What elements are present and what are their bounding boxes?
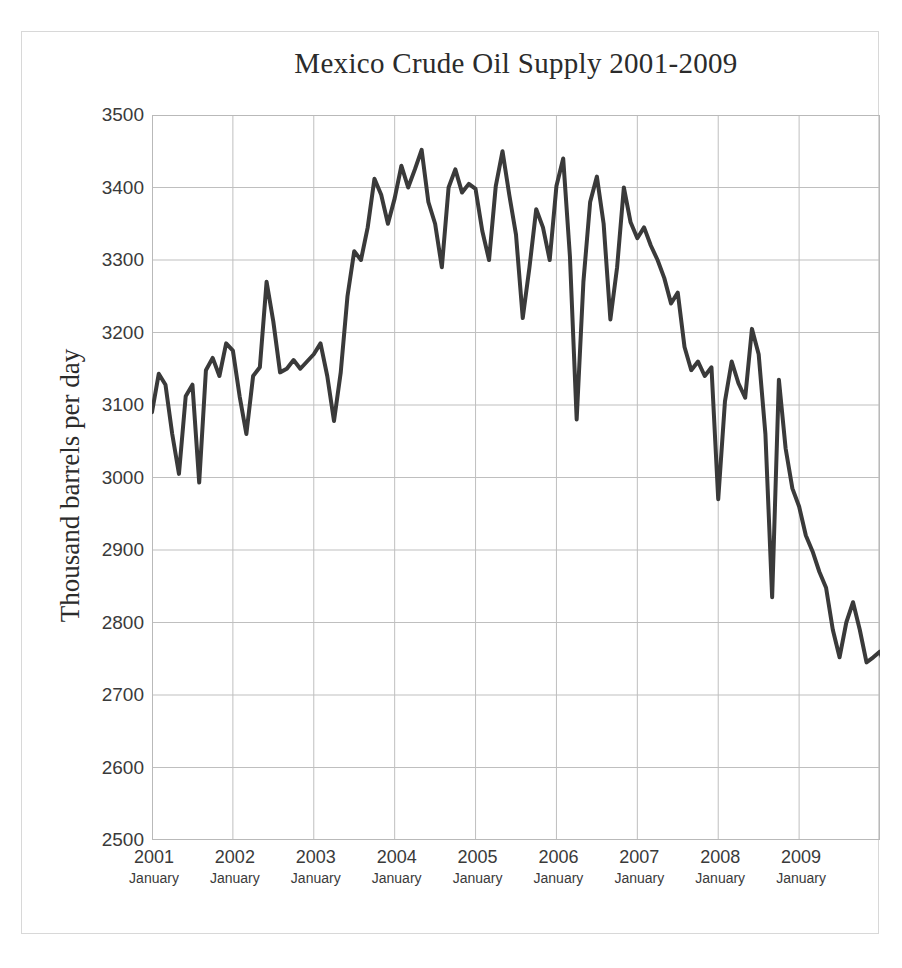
x-axis-tick-year: 2009 xyxy=(746,846,856,868)
y-axis-tick-label: 3400 xyxy=(74,177,144,199)
x-axis-tick-labels: 2001January2002January2003January2004Jan… xyxy=(152,846,880,916)
y-axis-tick-label: 3500 xyxy=(74,104,144,126)
y-axis-tick-label: 2600 xyxy=(74,757,144,779)
y-axis-tick-label: 3000 xyxy=(74,467,144,489)
plot-area xyxy=(152,115,880,840)
page-title: Mexico Crude Oil Supply 2001-2009 xyxy=(152,47,880,80)
x-axis-tick-2009: 2009January xyxy=(746,846,856,888)
y-axis-tick-label: 3300 xyxy=(74,249,144,271)
y-axis-tick-label: 2900 xyxy=(74,539,144,561)
y-axis-tick-label: 3100 xyxy=(74,394,144,416)
y-axis-tick-label: 2800 xyxy=(74,612,144,634)
x-axis-tick-month: January xyxy=(746,868,856,888)
data-series-line xyxy=(152,150,880,829)
y-axis-tick-label: 2700 xyxy=(74,684,144,706)
plot-svg xyxy=(152,115,880,840)
y-axis-tick-labels: 3500340033003200310030002900280027002600… xyxy=(66,115,144,840)
chart-figure: Mexico Crude Oil Supply 2001-2009 Thousa… xyxy=(0,0,902,968)
y-axis-tick-label: 3200 xyxy=(74,322,144,344)
